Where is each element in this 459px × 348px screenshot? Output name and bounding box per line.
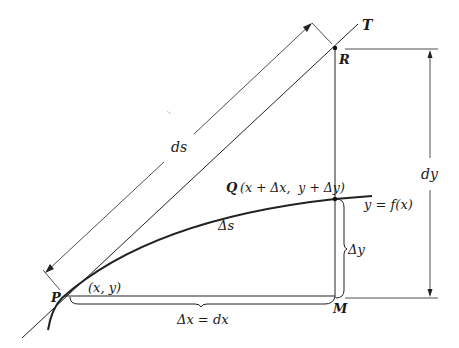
- label-R: R: [338, 52, 350, 67]
- point-Q: [333, 197, 337, 201]
- label-P: P: [50, 290, 62, 305]
- delta-y-brace: [336, 199, 347, 298]
- label-curve: y = f(x): [363, 197, 413, 212]
- dy-arrow-down-icon: [428, 289, 433, 297]
- delta-x-brace: [70, 297, 335, 307]
- ds-extension-top: [312, 23, 332, 44]
- stray-mark: [167, 111, 171, 114]
- label-Q-coords: (x + Δx, y + Δy): [240, 180, 345, 195]
- curve-y-f-x: [48, 196, 372, 330]
- label-delta-s: Δs: [217, 218, 234, 233]
- point-R: [333, 46, 337, 50]
- label-ds: ds: [171, 139, 187, 155]
- ds-extension-bottom: [43, 270, 60, 290]
- ds-dimension-lower: [46, 162, 164, 272]
- label-dy: dy: [421, 166, 439, 182]
- label-delta-x-eq-dx: Δx = dx: [176, 312, 229, 327]
- label-delta-y: Δy: [347, 242, 365, 257]
- arc-length-diagram: T R ds dy Q (x + Δx, y + Δy) y = f(x) Δs…: [0, 0, 459, 348]
- label-Q: Q: [226, 180, 238, 195]
- ds-dimension-upper: [194, 24, 311, 134]
- label-T: T: [362, 17, 374, 33]
- label-M: M: [332, 301, 348, 316]
- dy-arrow-up-icon: [428, 50, 433, 58]
- label-P-coords: (x, y): [88, 280, 121, 295]
